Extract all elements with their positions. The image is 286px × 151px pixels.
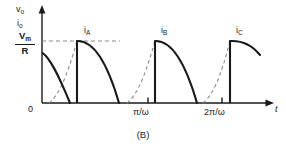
waveform-figure: vo io Vm R iA iB iC 0 π/ω 2π/ω t (B) bbox=[0, 0, 286, 151]
figure-caption: (B) bbox=[0, 129, 286, 140]
source-envelope-1 bbox=[49, 41, 77, 103]
pulse-b-decay-curve bbox=[155, 41, 197, 103]
y-axis-level-label-vm-over-r: Vm R bbox=[11, 31, 39, 55]
pulse-a-decay-curve bbox=[77, 41, 119, 103]
y-axis-current-label: io bbox=[17, 19, 23, 30]
curve-label-ic: iC bbox=[236, 26, 243, 37]
fraction-numerator: Vm bbox=[11, 31, 39, 44]
y-axis-voltage-label: vo bbox=[16, 5, 24, 16]
source-envelope-3 bbox=[203, 41, 230, 103]
x-axis-arrowhead bbox=[266, 100, 275, 107]
fraction-denominator: R bbox=[11, 45, 39, 56]
x-tick-label-2pi-omega: 2π/ω bbox=[204, 108, 225, 117]
origin-label: 0 bbox=[28, 105, 33, 114]
pulse-c-decay-curve bbox=[230, 41, 260, 55]
x-axis-label: t bbox=[275, 105, 278, 114]
curve-label-ib: iB bbox=[161, 26, 167, 37]
y-axis-arrowhead bbox=[39, 5, 46, 14]
x-tick-label-pi-omega: π/ω bbox=[133, 108, 149, 117]
curve-label-ia: iA bbox=[84, 26, 90, 37]
initial-decay-curve bbox=[43, 53, 70, 103]
source-envelope-2 bbox=[127, 41, 155, 103]
